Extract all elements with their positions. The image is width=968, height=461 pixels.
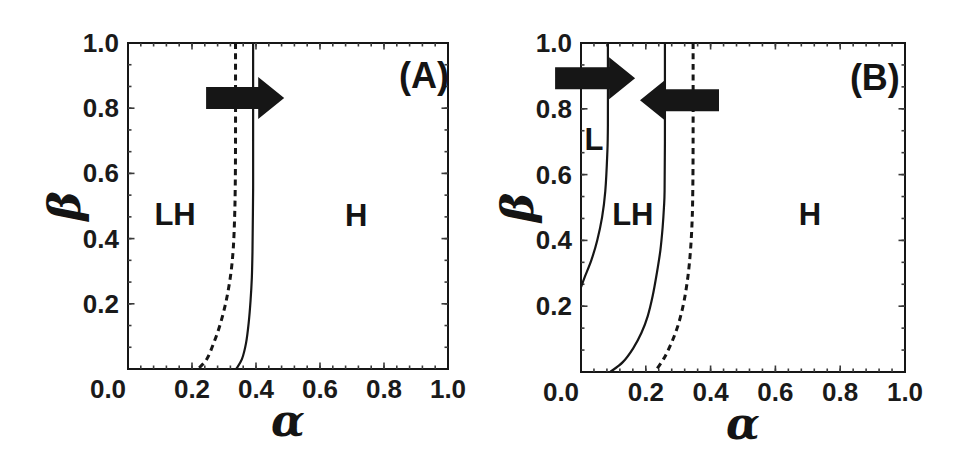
x-tick-label: 0.6 — [302, 374, 338, 404]
x-tick-label: 0.8 — [366, 374, 402, 404]
y-tick-label: 0.6 — [83, 158, 119, 188]
y-tick-label: 0.4 — [536, 225, 573, 255]
y-tick-label: 1.0 — [536, 28, 572, 58]
phase-diagram-figure: 0.00.20.40.60.81.00.20.40.60.81.0αβLHH(A… — [0, 0, 968, 461]
region-label-h: H — [799, 197, 821, 232]
x-tick-label: 0.4 — [238, 374, 275, 404]
x-tick-label: 1.0 — [887, 377, 923, 407]
region-label-lh: LH — [612, 197, 653, 232]
x-tick-label: 0.8 — [822, 377, 858, 407]
beta-axis-label: β — [492, 193, 543, 224]
x-tick-label: 0.2 — [174, 374, 210, 404]
panel-tag: (A) — [399, 55, 449, 96]
panel-tag: (B) — [850, 57, 900, 98]
x-tick-label: 0.0 — [90, 374, 126, 404]
region-label-l: L — [584, 122, 603, 157]
y-tick-label: 0.6 — [536, 160, 572, 190]
x-tick-label: 0.0 — [543, 377, 579, 407]
beta-axis-label: β — [39, 191, 90, 222]
y-tick-label: 0.8 — [536, 94, 572, 124]
panel-a: 0.00.20.40.60.81.00.20.40.60.81.0αβLHH(A… — [39, 28, 467, 446]
transition-arrow-right — [206, 77, 284, 119]
x-tick-label: 0.4 — [693, 377, 730, 407]
y-tick-label: 0.8 — [83, 93, 119, 123]
panel-b: 0.00.20.40.60.81.00.20.40.60.81.0αβLLHH(… — [492, 28, 924, 449]
transition-arrow-left — [640, 79, 719, 121]
figure-canvas: 0.00.20.40.60.81.00.20.40.60.81.0αβLHH(A… — [0, 0, 968, 461]
alpha-axis-label: α — [726, 398, 760, 449]
x-tick-label: 0.2 — [628, 377, 664, 407]
y-tick-label: 0.2 — [536, 291, 572, 321]
x-tick-label: 1.0 — [430, 374, 466, 404]
alpha-axis-label: α — [271, 395, 305, 446]
region-label-lh: LH — [154, 197, 195, 232]
y-tick-label: 0.4 — [83, 224, 120, 254]
y-tick-label: 1.0 — [83, 28, 119, 58]
y-tick-label: 0.2 — [83, 289, 119, 319]
x-tick-label: 0.6 — [757, 377, 793, 407]
region-label-h: H — [345, 198, 367, 233]
